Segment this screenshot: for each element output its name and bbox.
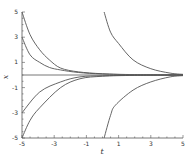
series-line — [104, 76, 183, 138]
y-tick-label: -5 — [12, 134, 18, 141]
curves — [22, 12, 183, 138]
x-tick-label: 3 — [149, 140, 153, 147]
y-tick-label: 3 — [14, 33, 18, 40]
axes: 531-1-3-5-5-3-1135 — [12, 8, 185, 147]
y-tick-label: -1 — [12, 84, 18, 91]
y-axis-label: x — [1, 74, 10, 79]
x-tick-label: -3 — [51, 140, 57, 147]
x-tick-label: 1 — [117, 140, 121, 147]
series-line — [22, 75, 183, 113]
chart: 531-1-3-5-5-3-1135 x t — [0, 0, 187, 161]
x-tick-label: 5 — [181, 140, 185, 147]
x-tick-label: -5 — [19, 140, 25, 147]
y-tick-label: 1 — [14, 58, 18, 65]
x-tick-label: -1 — [83, 140, 89, 147]
series-line — [22, 12, 183, 75]
y-tick-label: 5 — [14, 8, 18, 15]
y-tick-label: -3 — [12, 109, 18, 116]
x-axis-label: t — [100, 147, 104, 156]
series-line — [22, 75, 183, 138]
series-line — [104, 12, 183, 74]
series-line — [22, 37, 183, 75]
